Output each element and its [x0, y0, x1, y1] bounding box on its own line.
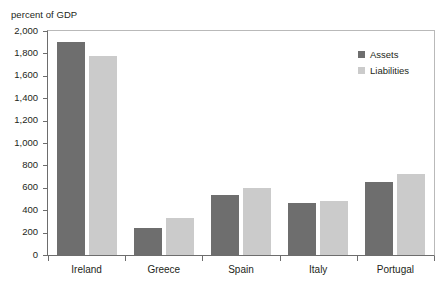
y-axis-tick-label: 200	[22, 226, 38, 237]
chart-legend: AssetsLiabilities	[358, 47, 409, 79]
y-axis-tick-label: 1,200	[14, 114, 38, 125]
y-axis-tick-label: 2,000	[14, 25, 38, 36]
y-axis-tick-label: 400	[22, 204, 38, 215]
legend-swatch-liabilities	[358, 67, 365, 74]
legend-item-assets: Assets	[358, 47, 409, 61]
y-axis-tick-mark	[43, 121, 47, 122]
legend-item-liabilities: Liabilities	[358, 63, 409, 77]
x-axis-tick-mark	[434, 256, 435, 261]
y-axis-tick-mark	[43, 98, 47, 99]
bar-assets-ireland	[57, 42, 85, 255]
y-axis-tick-mark	[43, 255, 47, 256]
y-axis-tick-label: 1,000	[14, 137, 38, 148]
y-axis-tick-mark	[43, 76, 47, 77]
bar-liabilities-ireland	[89, 56, 117, 255]
y-axis-tick-label: 1,600	[14, 69, 38, 80]
y-axis-caption: percent of GDP	[11, 9, 77, 20]
y-axis-tick-label: 600	[22, 181, 38, 192]
y-axis-tick-mark	[43, 53, 47, 54]
y-axis-tick-mark	[43, 210, 47, 211]
x-axis-tick-mark	[357, 256, 358, 261]
bar-liabilities-italy	[320, 201, 348, 255]
y-axis-tick-mark	[43, 143, 47, 144]
bar-group	[202, 31, 279, 255]
legend-label-assets: Assets	[370, 49, 399, 60]
x-axis-tick-mark	[202, 256, 203, 261]
x-axis-tick-mark	[125, 256, 126, 261]
x-axis-label-portugal: Portugal	[357, 264, 434, 275]
bar-liabilities-spain	[243, 188, 271, 255]
x-axis-label-ireland: Ireland	[48, 264, 125, 275]
y-axis-tick-mark	[43, 31, 47, 32]
y-axis-tick-mark	[43, 165, 47, 166]
x-axis-label-spain: Spain	[202, 264, 279, 275]
x-axis-label-greece: Greece	[125, 264, 202, 275]
y-axis-tick-label: 800	[22, 159, 38, 170]
y-axis-tick-label: 1,400	[14, 92, 38, 103]
bar-liabilities-greece	[166, 218, 194, 255]
legend-label-liabilities: Liabilities	[370, 65, 409, 76]
y-axis-tick-label: 1,800	[14, 47, 38, 58]
x-axis-label-italy: Italy	[280, 264, 357, 275]
bar-group	[48, 31, 125, 255]
y-axis-tick-label: 0	[33, 249, 38, 260]
y-axis-tick-mark	[43, 188, 47, 189]
bar-assets-spain	[211, 195, 239, 255]
bar-assets-italy	[288, 203, 316, 255]
bar-group	[125, 31, 202, 255]
legend-swatch-assets	[358, 51, 365, 58]
x-axis-tick-mark	[48, 256, 49, 261]
bar-group	[280, 31, 357, 255]
bar-liabilities-portugal	[397, 174, 425, 255]
y-axis-tick-mark	[43, 233, 47, 234]
bar-assets-portugal	[365, 182, 393, 255]
bar-chart: percent of GDP 02004006008001,0001,2001,…	[0, 0, 443, 292]
x-axis-tick-mark	[280, 256, 281, 261]
bar-assets-greece	[134, 228, 162, 255]
